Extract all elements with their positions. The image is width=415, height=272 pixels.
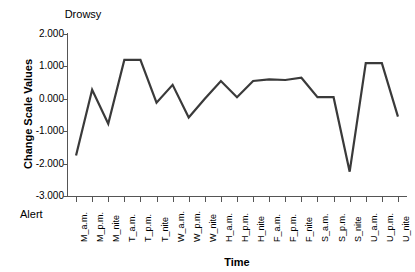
x-axis-tick-label: W_p.m. [193, 211, 202, 242]
x-axis-tick-mark [157, 197, 158, 202]
x-axis-tick-label: M_p.m. [96, 212, 105, 242]
x-axis-tick-mark [253, 197, 254, 202]
data-series-line [76, 60, 398, 172]
y-axis-tick-label: -1.000 [24, 126, 64, 136]
line-chart: Drowsy Change Scale Values 2.0001.0000.0… [0, 0, 415, 272]
y-axis-tick-mark [63, 99, 68, 100]
x-axis-tick-mark [398, 197, 399, 202]
x-axis-tick-mark [140, 197, 141, 202]
x-axis-tick-mark [92, 197, 93, 202]
x-axis-tick-mark [76, 197, 77, 202]
x-axis-tick-label: F_a.m. [273, 214, 282, 242]
y-axis-tick-mark [63, 164, 68, 165]
x-axis-tick-mark [285, 197, 286, 202]
x-axis-tick-mark [221, 197, 222, 202]
x-axis-title: Time [68, 256, 406, 268]
x-axis-tick-mark [189, 197, 190, 202]
x-axis-tick-mark [269, 197, 270, 202]
x-axis-tick-mark [173, 197, 174, 202]
x-axis-tick-label: F_p.m. [289, 214, 298, 242]
x-axis-tick-mark [317, 197, 318, 202]
x-axis-tick-label: T_a.m. [128, 214, 137, 242]
x-axis-tick-label: F_nite [305, 217, 314, 242]
y-axis-tick-label: 2.000 [24, 29, 64, 39]
x-axis-tick-label: U_a.m. [370, 213, 379, 242]
x-axis-tick-label: U_p.m. [386, 213, 395, 242]
plot-area [68, 34, 406, 196]
y-axis-tick-label: 0.000 [24, 94, 64, 104]
x-axis-tick-label: S_p.m. [338, 213, 347, 242]
x-axis-tick-mark [237, 197, 238, 202]
x-axis-tick-label: H_nite [257, 216, 266, 242]
x-axis-tick-mark [350, 197, 351, 202]
x-axis-tick-label: H_p.m. [241, 213, 250, 242]
x-axis-tick-label: U_nite [402, 216, 411, 242]
x-axis-tick-label: T_nite [161, 217, 170, 242]
x-axis-tick-label: W_nite [209, 214, 218, 242]
x-axis-tick-mark [301, 197, 302, 202]
x-axis-tick-label: T_p.m. [144, 214, 153, 242]
x-axis-tick-label: H_a.m. [225, 213, 234, 242]
x-axis-tick-labels: M_a.m.M_p.m.M_niteT_a.m.T_p.m.T_niteW_a.… [0, 196, 415, 246]
x-axis-tick-label: S_nite [354, 216, 363, 242]
x-axis-tick-mark [205, 197, 206, 202]
x-axis-tick-mark [108, 197, 109, 202]
y-axis-tick-mark [63, 196, 68, 197]
x-axis-tick-label: S_a.m. [321, 213, 330, 242]
x-axis-tick-mark [382, 197, 383, 202]
x-axis-tick-mark [334, 197, 335, 202]
y-axis-tick-mark [63, 34, 68, 35]
data-line-svg [68, 34, 406, 196]
y-axis-tick-label: -2.000 [24, 159, 64, 169]
bottom-anchor-label: Alert [20, 208, 43, 220]
y-axis-tick-label: 1.000 [24, 61, 64, 71]
x-axis-tick-mark [124, 197, 125, 202]
x-axis-tick-label: M_a.m. [80, 212, 89, 242]
y-axis-tick-mark [63, 131, 68, 132]
x-axis-tick-label: W_a.m. [177, 211, 186, 242]
x-axis-tick-label: M_nite [112, 215, 121, 242]
y-axis-tick-mark [63, 66, 68, 67]
x-axis-tick-mark [366, 197, 367, 202]
